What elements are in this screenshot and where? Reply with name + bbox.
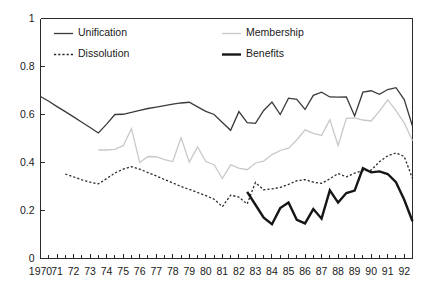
x-tick-label: 91 [382,265,394,277]
x-tick-label: 1970 [29,265,53,277]
y-tick-label: 0.8 [20,60,35,72]
y-axis-ticks: 00.20.40.60.81 [20,12,45,264]
y-tick-label: 0.2 [20,204,35,216]
series-line-membership [98,100,412,179]
y-tick-label: 0.6 [20,108,35,120]
series-line-benefits [247,168,412,224]
x-tick-label: 90 [365,265,377,277]
x-tick-label: 86 [299,265,311,277]
x-tick-label: 74 [101,265,113,277]
x-tick-label: 73 [84,265,96,277]
x-tick-label: 85 [283,265,295,277]
chart-legend: UnificationDissolutionMembershipBenefits [54,26,304,59]
x-tick-label: 80 [200,265,212,277]
x-tick-label: 76 [134,265,146,277]
x-tick-label: 72 [68,265,80,277]
legend-label-benefits: Benefits [246,47,284,59]
x-tick-label: 71 [51,265,63,277]
x-tick-label: 78 [167,265,179,277]
y-tick-label: 1 [29,12,35,24]
y-tick-label: 0 [29,252,35,264]
chart-container: 00.20.40.60.81 1970717273747576777879808… [0,0,431,294]
x-tick-label: 87 [316,265,328,277]
x-tick-label: 77 [150,265,162,277]
data-series [41,88,413,225]
x-tick-label: 79 [183,265,195,277]
legend-label-unification: Unification [78,26,127,38]
y-tick-label: 0.4 [20,156,35,168]
x-tick-label: 75 [117,265,129,277]
x-tick-label: 84 [266,265,278,277]
series-line-unification [41,88,413,133]
series-line-dissolution [65,153,412,207]
line-chart: 00.20.40.60.81 1970717273747576777879808… [0,0,431,294]
x-tick-label: 83 [250,265,262,277]
x-axis-ticks: 1970717273747576777879808182838485868788… [29,254,410,277]
legend-label-membership: Membership [246,26,304,38]
x-tick-label: 88 [332,265,344,277]
x-tick-label: 82 [233,265,245,277]
x-tick-label: 81 [217,265,229,277]
x-tick-label: 89 [349,265,361,277]
x-tick-label: 92 [398,265,410,277]
legend-label-dissolution: Dissolution [78,47,130,59]
